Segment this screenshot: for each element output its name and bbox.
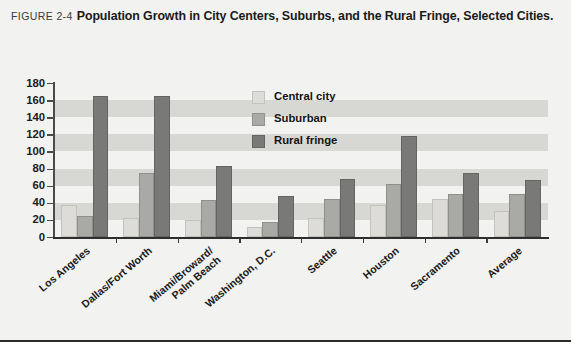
- legend-label: Suburban: [274, 113, 327, 124]
- y-tick-label: 80: [19, 163, 45, 174]
- bar: [494, 211, 510, 237]
- bar: [401, 136, 417, 237]
- bar: [278, 196, 294, 237]
- bar: [93, 96, 109, 237]
- bar: [77, 216, 93, 237]
- x-category-label: Average: [410, 245, 525, 342]
- y-tick-label: 0: [19, 232, 45, 243]
- y-tick-label: 160: [19, 95, 45, 106]
- x-category-label: Houston: [286, 245, 401, 342]
- x-category-label: Seattle: [225, 245, 340, 342]
- x-tick-mark: [178, 238, 179, 243]
- legend-item: Rural fringe: [252, 132, 382, 150]
- bar: [340, 179, 356, 237]
- y-tick-label: 120: [19, 129, 45, 140]
- bar-group: [185, 83, 232, 237]
- bar: [61, 205, 77, 238]
- y-tick-label: 40: [19, 197, 45, 208]
- figure-title: Population Growth in City Centers, Subur…: [77, 9, 553, 23]
- bar: [432, 199, 448, 238]
- y-tick-label: 100: [19, 146, 45, 157]
- legend-item: Central city: [252, 88, 382, 106]
- bar-group: [432, 83, 479, 237]
- legend-swatch-rural-fringe: [252, 135, 265, 148]
- x-category-label: Sacramento: [348, 245, 463, 342]
- x-tick-mark: [301, 238, 302, 243]
- bar: [139, 173, 155, 237]
- bar: [370, 205, 386, 237]
- y-axis-line: [53, 82, 55, 238]
- legend-label: Central city: [274, 91, 336, 102]
- bar-group: [123, 83, 170, 237]
- legend-item: Suburban: [252, 110, 382, 128]
- y-tick-label: 60: [19, 180, 45, 191]
- legend-swatch-suburban: [252, 113, 265, 126]
- x-tick-mark: [239, 238, 240, 243]
- bar: [216, 166, 232, 237]
- bar: [463, 173, 479, 237]
- y-tick-label: 180: [19, 78, 45, 89]
- bar: [386, 184, 402, 237]
- bar: [201, 200, 217, 237]
- bar: [324, 199, 340, 238]
- figure-container: FIGURE 2-4Population Growth in City Cent…: [0, 0, 571, 342]
- bar: [448, 194, 464, 237]
- x-tick-mark: [363, 238, 364, 243]
- bar: [262, 222, 278, 237]
- legend-label: Rural fringe: [274, 135, 337, 146]
- x-category-label: Miami/Broward/Palm Beach: [101, 245, 223, 342]
- bar-group: [61, 83, 108, 237]
- bar: [123, 218, 139, 237]
- figure-number: FIGURE 2-4: [11, 10, 73, 22]
- legend: Central city Suburban Rural fringe: [252, 88, 382, 154]
- bar: [525, 180, 541, 237]
- figure-caption: FIGURE 2-4Population Growth in City Cent…: [11, 7, 553, 23]
- x-category-label: Los Angeles: [0, 245, 92, 342]
- bar: [509, 194, 525, 237]
- legend-swatch-central-city: [252, 91, 265, 104]
- bar: [247, 227, 263, 237]
- x-tick-mark: [425, 238, 426, 243]
- y-tick-label: 20: [19, 214, 45, 225]
- bar: [185, 220, 201, 237]
- bar: [154, 96, 170, 237]
- x-tick-mark: [486, 238, 487, 243]
- bar: [308, 218, 324, 237]
- y-tick-label: 140: [19, 112, 45, 123]
- bar-group: [494, 83, 541, 237]
- x-tick-mark: [116, 238, 117, 243]
